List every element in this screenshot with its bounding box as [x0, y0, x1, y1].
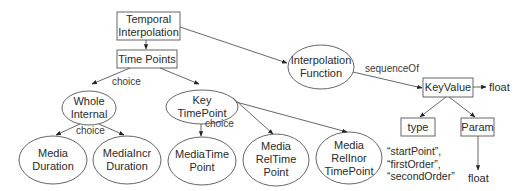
media-relinor-timepoint-label: Media RelInor TimePoint [316, 139, 382, 178]
keyvalue-label: KeyValue [423, 81, 473, 94]
whole-internal-line1: Whole [62, 95, 116, 108]
mediatime-point-line2: Point [168, 161, 236, 174]
edge-temporal-to-interpfunc [180, 27, 287, 63]
temporal-interpolation-label: Temporal Interpolation [117, 13, 180, 39]
media-duration-line1: Media [19, 147, 87, 160]
keyvalue-float-terminal: float [489, 81, 510, 94]
mediatime-point-label: MediaTime Point [168, 148, 236, 174]
interpolation-function-line2: Function [288, 67, 354, 80]
interpolation-function-line1: Interpolation [288, 54, 354, 67]
param-label: Param [461, 121, 494, 134]
temporal-interpolation-line1: Temporal [117, 13, 180, 26]
choice-label-key-timepoint: choice [205, 118, 234, 130]
mediaincr-duration-label: MediaIncr Duration [93, 147, 161, 173]
edge-timepoints-to-key [160, 68, 199, 84]
media-relinor-timepoint-line3: TimePoint [316, 165, 382, 178]
edge-keyvalue-to-type [420, 97, 446, 117]
type-values-note: “startPoint”, “firstOrder”, “secondOrder… [387, 145, 455, 183]
edge-key-to-relinor [236, 102, 347, 132]
choice-label-whole-internal: choice [76, 125, 105, 137]
whole-internal-label: Whole Internal [62, 95, 116, 121]
media-duration-label: Media Duration [19, 147, 87, 173]
edge-keyvalue-to-param [449, 97, 475, 117]
media-duration-line2: Duration [19, 160, 87, 173]
key-timepoint-line1: Key [166, 94, 238, 107]
media-reltime-point-line3: Point [243, 166, 309, 179]
param-float-terminal: float [468, 172, 488, 185]
temporal-interpolation-line2: Interpolation [117, 26, 180, 39]
media-relinor-timepoint-line1: Media [316, 139, 382, 152]
media-reltime-point-line2: RelTime [243, 153, 309, 166]
type-label: type [401, 121, 435, 134]
mediaincr-duration-line1: MediaIncr [93, 147, 161, 160]
type-value-secondorder: “secondOrder” [387, 170, 455, 183]
type-value-startpoint: “startPoint”, [387, 145, 455, 158]
sequenceof-label: sequenceOf [365, 63, 419, 75]
type-value-firstorder: “firstOrder”, [387, 158, 455, 171]
time-points-label: Time Points [117, 53, 177, 66]
choice-label-timepoints: choice [112, 76, 141, 88]
mediatime-point-line1: MediaTime [168, 148, 236, 161]
whole-internal-line2: Internal [62, 108, 116, 121]
media-reltime-point-label: Media RelTime Point [243, 140, 309, 179]
media-relinor-timepoint-line2: RelInor [316, 152, 382, 165]
interpolation-function-label: Interpolation Function [288, 54, 354, 80]
key-timepoint-label: Key TimePoint [166, 94, 238, 120]
edge-key-to-reltime [233, 98, 273, 134]
media-reltime-point-line1: Media [243, 140, 309, 153]
mediaincr-duration-line2: Duration [93, 160, 161, 173]
